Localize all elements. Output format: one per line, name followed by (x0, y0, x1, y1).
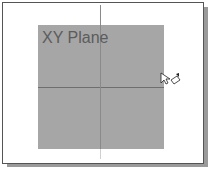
xy-plane[interactable]: XY Plane (38, 25, 164, 149)
horizontal-axis-line (38, 87, 164, 88)
select-plane-cursor-icon (160, 72, 182, 86)
vertical-axis-extension-bottom (100, 149, 101, 159)
plane-label: XY Plane (42, 29, 108, 47)
